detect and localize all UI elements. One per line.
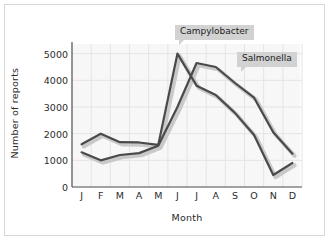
x-tick-label: A bbox=[131, 190, 147, 201]
x-tick-label: F bbox=[93, 190, 109, 201]
y-tick-label: 3000 bbox=[34, 102, 68, 113]
x-tick-label: J bbox=[169, 190, 185, 201]
x-tick-label: O bbox=[246, 190, 262, 201]
x-tick-label: D bbox=[284, 190, 300, 201]
x-axis-title: Month bbox=[72, 212, 302, 223]
chart-screenshot: 010002000300040005000 JFMAMJJASOND Numbe… bbox=[0, 0, 330, 241]
y-axis-title: Number of reports bbox=[9, 69, 20, 159]
x-tick-label: S bbox=[227, 190, 243, 201]
callout-tail-campylobacter bbox=[179, 38, 186, 45]
x-tick-label: J bbox=[189, 190, 205, 201]
x-tick-label: M bbox=[150, 190, 166, 201]
y-tick-label: 1000 bbox=[34, 155, 68, 166]
series-label-campylobacter: Campylobacter bbox=[175, 25, 254, 40]
x-tick-label: N bbox=[265, 190, 281, 201]
x-tick-label: A bbox=[208, 190, 224, 201]
callout-tail-salmonella bbox=[241, 65, 248, 72]
y-axis-ticks: 010002000300040005000 bbox=[32, 0, 68, 241]
y-tick-label: 0 bbox=[34, 182, 68, 193]
x-tick-label: J bbox=[74, 190, 90, 201]
y-tick-label: 4000 bbox=[34, 75, 68, 86]
y-tick-label: 2000 bbox=[34, 128, 68, 139]
x-tick-label: M bbox=[112, 190, 128, 201]
y-tick-label: 5000 bbox=[34, 48, 68, 59]
